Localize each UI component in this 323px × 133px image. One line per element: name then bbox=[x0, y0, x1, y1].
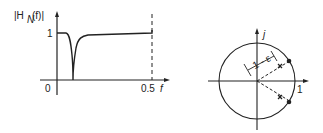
radius-annotation: 1 - ε bbox=[251, 52, 273, 71]
magnitude-response-plot: |H N (f)| 1 0 0.5 f bbox=[14, 10, 170, 95]
dimension-tick-end bbox=[271, 51, 277, 61]
zero-lower-icon bbox=[287, 100, 292, 105]
magnitude-curve bbox=[57, 30, 152, 80]
real-axis-label: 1 bbox=[297, 84, 303, 95]
y-tick-1: 1 bbox=[47, 28, 53, 39]
y-axis-label-prefix: |H bbox=[14, 10, 24, 21]
real-axis-arrow-icon bbox=[303, 79, 309, 83]
y-axis-arrow-icon bbox=[55, 11, 59, 17]
x-tick-0-5: 0.5 bbox=[141, 83, 155, 94]
imag-axis-arrow-icon bbox=[255, 28, 259, 34]
x-axis-arrow-icon bbox=[164, 78, 170, 82]
y-axis-label-suffix: (f)| bbox=[32, 10, 44, 21]
dimension-tick-start bbox=[244, 64, 251, 76]
pole-zero-plot: 1 - ε j 1 bbox=[208, 28, 309, 130]
radius-lower bbox=[257, 81, 288, 100]
imag-axis-label: j bbox=[261, 29, 266, 40]
zero-upper-icon bbox=[287, 59, 292, 64]
diagram-canvas: |H N (f)| 1 0 0.5 f 1 - ε j 1 bbox=[0, 0, 323, 133]
x-tick-0: 0 bbox=[45, 83, 51, 94]
x-axis-label: f bbox=[160, 83, 164, 94]
